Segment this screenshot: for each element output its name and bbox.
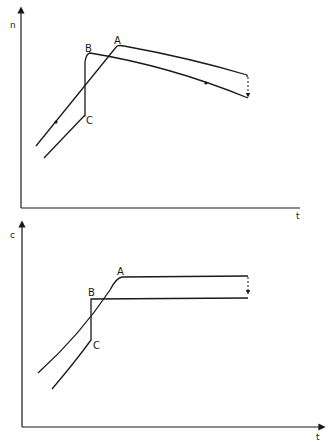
bottom-curve-a (38, 276, 248, 373)
bottom-label-b: B (88, 287, 95, 298)
top-direction-dot-1 (54, 120, 57, 123)
bottom-curve-cb (52, 298, 248, 389)
bottom-y-axis-label: c (10, 230, 15, 240)
top-label-c: C (86, 115, 93, 126)
top-curve-a (36, 46, 247, 147)
bottom-label-a: A (117, 266, 124, 277)
top-direction-dot-2 (204, 81, 207, 84)
top-curve-cb (44, 53, 248, 158)
top-y-axis-label: n (10, 20, 16, 30)
diagram: n t A B C c t A B C (0, 0, 332, 442)
top-label-a: A (114, 35, 121, 46)
bottom-label-c: C (93, 340, 100, 351)
top-panel: n t A B C (10, 10, 300, 221)
top-label-b: B (85, 43, 92, 54)
bottom-x-axis-label: t (316, 432, 320, 442)
bottom-panel: c t A B C (10, 224, 322, 442)
top-x-axis-label: t (296, 211, 300, 221)
